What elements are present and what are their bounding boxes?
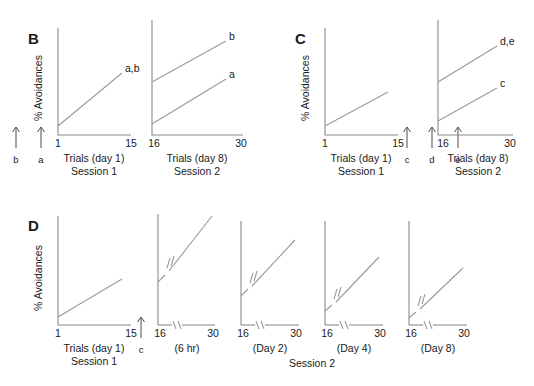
x-axis-title-line2: Session 1 [71, 165, 117, 177]
x-axis-title-line2: Session 2 [455, 165, 501, 177]
xtick-min: 16 [148, 137, 160, 149]
series-label-c: c [500, 77, 505, 89]
panel-c-y-axis-label: % Avoidances [299, 55, 311, 121]
data-line-session1 [58, 279, 122, 317]
data-line-pre-break [409, 312, 416, 318]
data-line-ab [58, 73, 122, 126]
arrow-label-b: b [13, 154, 18, 165]
panel-d-session2-label: Session 2 [289, 357, 335, 369]
xtick-min: 16 [437, 137, 449, 149]
data-line-break-mark [418, 294, 425, 306]
data-line-post-break [169, 216, 212, 271]
subplot-caption: (Day 8) [421, 342, 455, 354]
x-axis-title-line1: Trials (day 1) [64, 152, 125, 164]
x-axis-break-mark [256, 321, 264, 329]
x-axis-title-line1: Trials (day 8) [448, 152, 509, 164]
arrow-label-a: a [38, 154, 44, 165]
xtick-min: 16 [237, 327, 249, 339]
xtick-max: 30 [504, 137, 516, 149]
arrow-label-c: c [405, 154, 410, 165]
axis-lines [58, 216, 131, 325]
data-line-c [438, 88, 497, 121]
x-axis-title-line1: Trials (day 1) [331, 152, 392, 164]
xtick-max: 30 [458, 327, 470, 339]
panel-c-subplot-session2: d,e c 16 30 Trials (day 8) Session 2 [437, 20, 516, 177]
panel-b-y-axis-label: % Avoidances [32, 55, 44, 121]
data-line-post-break [420, 268, 463, 309]
x-axis-break-mark [173, 321, 181, 329]
xtick-max: 30 [235, 137, 247, 149]
panel-c: C % Avoidances 1 15 Trials (day 1) Sessi… [295, 20, 516, 177]
xtick-min: 16 [154, 327, 166, 339]
x-axis-title-line1: Trials (day 1) [64, 342, 125, 354]
x-axis-break-mark [424, 321, 432, 329]
x-axis-title-line2: Session 1 [338, 165, 384, 177]
data-line-post-break [252, 240, 295, 286]
panel-d-subplot-6hr: 16 30 (6 hr) [154, 214, 219, 354]
figure-svg: B % Avoidances a,b 1 15 Trials (day 1) S… [0, 0, 534, 386]
xtick-min: 1 [322, 137, 328, 149]
data-line-post-break [336, 257, 379, 302]
arrow-label-c: c [139, 344, 144, 355]
figure-container: B % Avoidances a,b 1 15 Trials (day 1) S… [0, 0, 534, 386]
panel-d: D % Avoidances 1 15 Trials (day 1) Sessi… [28, 214, 470, 369]
panel-b: B % Avoidances a,b 1 15 Trials (day 1) S… [13, 20, 247, 177]
x-axis-title-line2: Session 1 [71, 355, 117, 367]
series-label-a: a [229, 68, 235, 80]
axis-lines [325, 28, 398, 135]
xtick-max: 15 [125, 137, 137, 149]
subplot-caption: (6 hr) [174, 342, 199, 354]
panel-d-subplot-day4: 16 30 (Day 4) [321, 221, 386, 354]
x-axis-break-mark [340, 321, 348, 329]
panel-b-subplot-session2: b a 16 30 Trials (day 8) Session 2 [148, 20, 247, 177]
xtick-max: 30 [374, 327, 386, 339]
xtick-min: 1 [55, 327, 61, 339]
panel-b-subplot-session1: a,b 1 15 Trials (day 1) Session 1 [55, 28, 140, 177]
series-label-ab: a,b [125, 62, 140, 74]
arrow-label-d: d [429, 154, 434, 165]
xtick-min: 16 [405, 327, 417, 339]
subplot-caption: (Day 4) [337, 342, 371, 354]
panel-d-subplot-day2: 16 30 (Day 2) [237, 221, 302, 354]
series-label-b: b [229, 30, 235, 42]
panel-d-letter: D [28, 217, 39, 234]
panel-d-subplot-session1: 1 15 Trials (day 1) Session 1 [55, 216, 137, 367]
panel-c-letter: C [295, 30, 306, 47]
x-axis-title-line2: Session 2 [174, 165, 220, 177]
data-line-pre-break [158, 275, 165, 282]
xtick-max: 30 [207, 327, 219, 339]
data-line-b [152, 41, 226, 82]
subplot-caption: (Day 2) [253, 342, 287, 354]
panel-c-subplot-session1: 1 15 Trials (day 1) Session 1 [322, 28, 404, 177]
xtick-min: 16 [321, 327, 333, 339]
panel-d-event-arrows: c [138, 317, 145, 355]
data-line-pre-break [325, 305, 332, 311]
panel-b-event-arrows: b a [13, 127, 45, 165]
data-line-de [438, 46, 497, 82]
xtick-max: 15 [392, 137, 404, 149]
panel-d-subplot-day8: 16 30 (Day 8) [405, 221, 470, 354]
data-line-a [152, 79, 226, 124]
data-line-session1 [325, 92, 388, 126]
xtick-min: 1 [55, 137, 61, 149]
x-axis-title-line1: Trials (day 8) [167, 152, 228, 164]
axis-lines [58, 28, 131, 135]
data-line-pre-break [241, 289, 248, 296]
xtick-max: 15 [125, 327, 137, 339]
series-label-de: d,e [500, 35, 515, 47]
panel-d-y-axis-label: % Avoidances [32, 245, 44, 311]
xtick-max: 30 [290, 327, 302, 339]
panel-b-letter: B [28, 30, 39, 47]
